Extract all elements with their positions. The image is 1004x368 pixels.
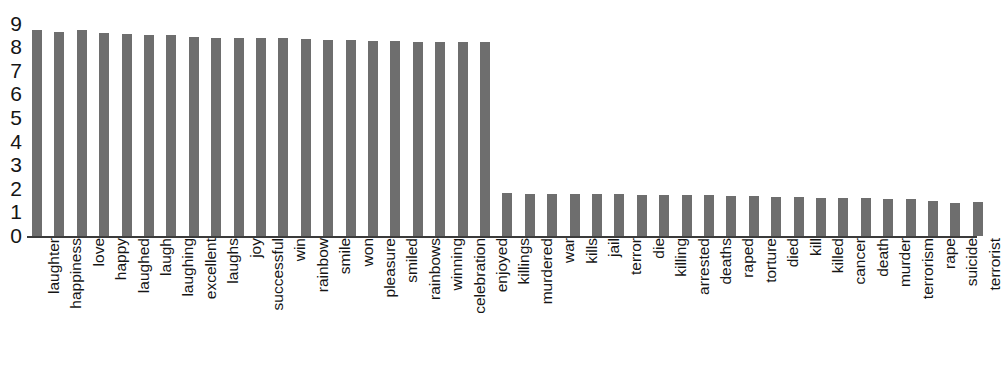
- y-tick-label: 8: [2, 36, 22, 57]
- x-tick-label: rainbow: [314, 238, 332, 292]
- x-tick-label: won: [359, 238, 377, 266]
- bar: [838, 198, 848, 236]
- bar: [726, 196, 736, 236]
- x-tick-label: laughter: [45, 238, 63, 294]
- x-tick-label: terrorist: [986, 238, 1004, 291]
- x-tick-label: death: [874, 238, 892, 277]
- bar: [256, 38, 266, 236]
- bar: [413, 42, 423, 236]
- bar: [502, 193, 512, 236]
- x-tick-label: raped: [739, 238, 757, 278]
- x-tick-label: deaths: [717, 238, 735, 285]
- x-tick-label: smile: [336, 238, 354, 274]
- x-tick-label: murdered: [538, 238, 556, 304]
- x-tick-label: pleasure: [381, 238, 399, 297]
- x-tick-label: smiled: [403, 238, 421, 283]
- x-tick-label: war: [560, 238, 578, 263]
- bar: [682, 195, 692, 236]
- x-tick-label: love: [90, 238, 108, 266]
- bar: [458, 42, 468, 236]
- x-tick-label: laughed: [135, 238, 153, 293]
- bar: [547, 194, 557, 236]
- bar: [368, 41, 378, 236]
- y-tick-label: 3: [2, 154, 22, 175]
- bar: [32, 30, 42, 236]
- bar: [883, 199, 893, 236]
- bar: [301, 39, 311, 236]
- y-tick-label: 4: [2, 131, 22, 152]
- bar: [704, 195, 714, 236]
- y-tick-label: 2: [2, 178, 22, 199]
- bar: [99, 33, 109, 236]
- x-tick-label: kill: [807, 238, 825, 256]
- x-tick-label: killings: [515, 238, 533, 285]
- bar: [323, 40, 333, 236]
- x-tick-label: cancer: [851, 238, 869, 285]
- bar: [570, 194, 580, 236]
- bar: [54, 32, 64, 236]
- bar: [659, 195, 669, 236]
- bar: [950, 203, 960, 236]
- bar: [435, 42, 445, 236]
- x-tick-label: terror: [627, 238, 645, 275]
- x-tick-label: rape: [941, 238, 959, 269]
- bar: [614, 194, 624, 236]
- y-axis: 0123456789: [0, 0, 27, 240]
- x-tick-label: killing: [672, 238, 690, 277]
- y-tick-label: 5: [2, 107, 22, 128]
- x-tick-label: laughing: [179, 238, 197, 297]
- x-tick-label: happiness: [67, 238, 85, 309]
- x-tick-label: murder: [896, 238, 914, 287]
- bar: [816, 198, 826, 236]
- bar: [749, 196, 759, 236]
- y-tick-label: 6: [2, 83, 22, 104]
- bar: [211, 38, 221, 236]
- bar: [771, 197, 781, 236]
- x-tick-label: win: [291, 238, 309, 261]
- bar: [234, 38, 244, 236]
- y-tick-label: 7: [2, 60, 22, 81]
- x-tick-label: died: [784, 238, 802, 267]
- bar: [973, 202, 983, 236]
- plot-area: [27, 0, 977, 236]
- x-tick-label: laugh: [157, 238, 175, 276]
- bar: [861, 198, 871, 236]
- bar: [928, 201, 938, 236]
- bar: [390, 41, 400, 236]
- bar: [144, 35, 154, 236]
- bar: [122, 34, 132, 236]
- x-tick-label: killed: [829, 238, 847, 273]
- bar: [189, 37, 199, 236]
- bar: [346, 40, 356, 236]
- x-tick-label: terrorism: [919, 238, 937, 299]
- x-tick-label: suicide: [963, 238, 981, 286]
- bar: [637, 195, 647, 236]
- x-tick-label: rainbows: [426, 238, 444, 300]
- x-tick-label: kills: [583, 238, 601, 264]
- x-tick-label: jail: [605, 238, 623, 257]
- y-tick-label: 9: [2, 13, 22, 34]
- bar: [906, 199, 916, 236]
- y-tick-label: 1: [2, 201, 22, 222]
- x-tick-label: excellent: [202, 238, 220, 299]
- x-tick-label: torture: [762, 238, 780, 283]
- x-axis-labels: laughterhappinesslovehappylaughedlaughla…: [27, 238, 977, 368]
- x-tick-label: winning: [448, 238, 466, 291]
- bar: [480, 42, 490, 236]
- x-tick-label: successful: [269, 238, 287, 310]
- bar: [794, 197, 804, 236]
- x-tick-label: die: [650, 238, 668, 259]
- x-tick-label: arrested: [695, 238, 713, 295]
- x-tick-label: laughs: [224, 238, 242, 284]
- x-tick-label: enjoyed: [493, 238, 511, 292]
- bar: [77, 30, 87, 236]
- x-tick-label: happy: [112, 238, 130, 280]
- x-tick-label: celebration: [471, 238, 489, 314]
- bar: [525, 194, 535, 236]
- y-tick-label: 0: [2, 225, 22, 246]
- x-tick-label: joy: [247, 238, 265, 258]
- bar: [278, 38, 288, 236]
- bar: [592, 194, 602, 236]
- bar: [166, 35, 176, 236]
